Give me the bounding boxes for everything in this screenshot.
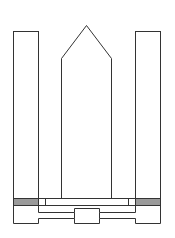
left-tower — [14, 32, 39, 199]
center-body — [62, 26, 112, 199]
right-shaded-band — [136, 199, 161, 206]
base-upper-outline — [39, 209, 136, 213]
platform — [39, 199, 136, 206]
base-lower-outline — [14, 219, 161, 224]
left-shaded-band — [14, 199, 39, 206]
diagram-canvas — [0, 0, 175, 238]
right-tower — [136, 32, 161, 199]
